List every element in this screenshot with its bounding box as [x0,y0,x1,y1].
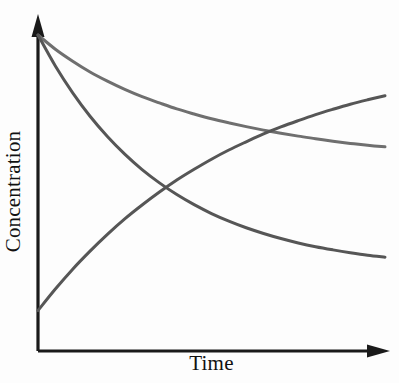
x-axis-label: Time [38,353,385,374]
y-axis-label: Concentration [0,0,28,383]
y-axis-label-text: Concentration [4,131,25,253]
curve-fast-decay [38,35,385,257]
curve-rising [38,96,385,311]
chart-figure: Concentration Time [0,0,399,383]
curve-slow-decay [38,35,385,147]
plot-canvas [0,0,399,383]
data-curves [38,35,385,311]
axes [32,14,391,358]
